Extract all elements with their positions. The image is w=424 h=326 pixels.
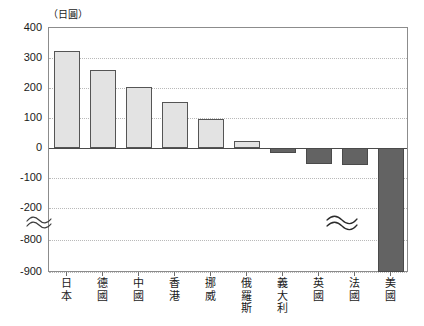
bar <box>342 148 368 165</box>
y-axis-break-icon <box>26 215 52 231</box>
y-axis-tick-label: 400 <box>0 22 42 33</box>
x-axis-category-label: 德國 <box>84 278 120 303</box>
bar <box>90 70 116 148</box>
bar <box>54 51 80 149</box>
x-axis-category-label: 中國 <box>120 278 156 303</box>
x-axis-category-label-char: 美 <box>372 278 408 291</box>
x-axis-category-label-char: 香 <box>156 278 192 291</box>
x-axis-category-label-char: 義 <box>264 278 300 291</box>
bars-layer <box>49 28 407 271</box>
x-axis-tick <box>390 272 391 276</box>
x-axis-category-label-char: 國 <box>84 291 120 304</box>
y-axis-tick-label: 0 <box>0 142 42 153</box>
x-axis-category-label: 義大利 <box>264 278 300 316</box>
x-axis-category-label-char: 港 <box>156 291 192 304</box>
x-axis-category-label-char: 本 <box>48 291 84 304</box>
x-axis-tick <box>102 272 103 276</box>
bar <box>306 148 332 164</box>
x-axis-tick <box>174 272 175 276</box>
x-axis-category-label-char: 威 <box>192 291 228 304</box>
x-axis-category-label-char: 挪 <box>192 278 228 291</box>
x-axis-tick <box>354 272 355 276</box>
bar <box>234 141 260 149</box>
x-axis-category-label-char: 國 <box>120 291 156 304</box>
x-axis-category-label: 挪威 <box>192 278 228 303</box>
x-axis-category-label-char: 國 <box>372 291 408 304</box>
x-axis-category-label: 法國 <box>336 278 372 303</box>
x-axis-category-label-char: 中 <box>120 278 156 291</box>
bar <box>126 87 152 148</box>
x-axis-category-label: 日本 <box>48 278 84 303</box>
y-axis-unit-label: （日圓） <box>48 9 88 21</box>
y-axis-tick-label: -800 <box>0 234 42 245</box>
x-axis-category-label-char: 法 <box>336 278 372 291</box>
x-axis-category-label-char: 俄 <box>228 278 264 291</box>
plot-area <box>48 27 408 272</box>
bar <box>378 148 404 272</box>
x-axis-tick <box>66 272 67 276</box>
x-axis-category-label-char: 英 <box>300 278 336 291</box>
y-axis-tick-label: -100 <box>0 172 42 183</box>
x-axis-category-label: 香港 <box>156 278 192 303</box>
x-axis-category-label: 美國 <box>372 278 408 303</box>
x-axis-tick <box>210 272 211 276</box>
bar-chart: （日圓） 4003002001000-100-200-800-900 日本德國中… <box>0 0 424 326</box>
zero-line <box>49 148 407 149</box>
x-axis-tick <box>318 272 319 276</box>
x-axis-category-label-char: 斯 <box>228 303 264 316</box>
x-axis-category-label: 英國 <box>300 278 336 303</box>
y-axis-tick-label: -200 <box>0 202 42 213</box>
x-axis-category-label-char: 日 <box>48 278 84 291</box>
x-axis-category-label: 俄羅斯 <box>228 278 264 316</box>
y-axis-tick-label: 300 <box>0 52 42 63</box>
y-axis-tick-label: 200 <box>0 82 42 93</box>
x-axis-tick <box>138 272 139 276</box>
y-axis-tick-label: 100 <box>0 112 42 123</box>
bar <box>162 102 188 149</box>
x-axis-category-label-char: 國 <box>336 291 372 304</box>
bar-break-icon <box>326 215 358 231</box>
x-axis-tick <box>282 272 283 276</box>
x-axis-tick <box>246 272 247 276</box>
x-axis-category-label-char: 德 <box>84 278 120 291</box>
x-axis-category-label-char: 國 <box>300 291 336 304</box>
y-axis-tick-label: -900 <box>0 266 42 277</box>
bar <box>198 119 224 148</box>
x-axis-category-labels: 日本德國中國香港挪威俄羅斯義大利英國法國美國 <box>48 278 408 326</box>
x-axis-category-label-char: 利 <box>264 303 300 316</box>
